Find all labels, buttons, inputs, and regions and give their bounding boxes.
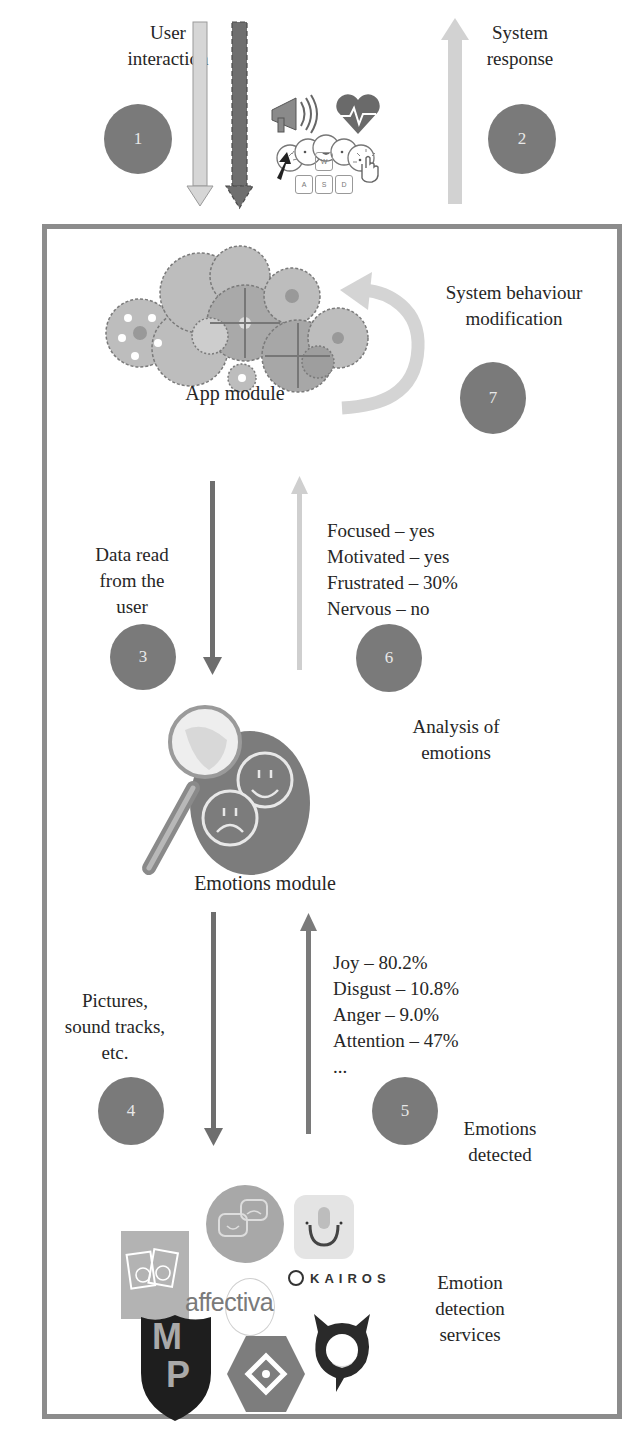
- detected-more: ...: [333, 1054, 459, 1080]
- data-read-arrow: [203, 481, 223, 676]
- heart-rate-icon: [334, 92, 382, 136]
- analysis-result-motivated: Motivated – yes: [327, 544, 458, 570]
- step-2-number: 2: [518, 129, 527, 149]
- behaviour-line1: System behaviour: [430, 280, 598, 306]
- kairos-wordmark: KAIROS: [310, 1271, 391, 1286]
- chat-emotions-app-icon: [205, 1184, 285, 1264]
- analysis-result-nervous: Nervous – no: [327, 596, 458, 622]
- media-label: Pictures, sound tracks, etc.: [50, 988, 180, 1066]
- hexagon-diamond-logo: [226, 1334, 306, 1414]
- analysis-result-arrow: [290, 476, 310, 671]
- step-1-badge: 1: [104, 104, 172, 174]
- services-line2: detection: [410, 1296, 530, 1322]
- touch-hand-icon: [352, 150, 382, 184]
- analysis-result-frustrated: Frustrated – 30%: [327, 570, 458, 596]
- analysis-result-focused: Focused – yes: [327, 518, 458, 544]
- data-read-line1: Data read: [72, 542, 192, 568]
- analysis-label-line2: emotions: [396, 740, 516, 766]
- user-input-arrow-light: [187, 22, 213, 212]
- step-5-badge: 5: [372, 1077, 438, 1145]
- step-4-number: 4: [127, 1101, 136, 1121]
- analysis-results-list: Focused – yes Motivated – yes Frustrated…: [327, 518, 458, 622]
- step-6-badge: 6: [356, 624, 422, 692]
- services-line3: services: [410, 1322, 530, 1348]
- system-response-label: System response: [460, 20, 580, 72]
- step-3-number: 3: [139, 647, 148, 667]
- detected-disgust: Disgust – 10.8%: [333, 976, 459, 1002]
- emotions-detected-label: Emotions detected: [440, 1116, 560, 1168]
- detection-services-label: Emotion detection services: [410, 1270, 530, 1348]
- key-d: D: [335, 175, 353, 194]
- system-response-line1: System: [460, 20, 580, 46]
- step-1-number: 1: [134, 129, 143, 149]
- mp-letter-m: M: [150, 1318, 200, 1356]
- emotions-module-label: Emotions module: [180, 870, 350, 896]
- media-line2: sound tracks,: [50, 1014, 180, 1040]
- media-line3: etc.: [50, 1040, 180, 1066]
- behaviour-modification-arrow: [338, 268, 428, 418]
- user-input-arrow-dark: [226, 22, 254, 212]
- behaviour-line2: modification: [430, 306, 598, 332]
- keyboard-wasd-icon: W A S D: [294, 150, 356, 200]
- microphone-app-icon: [294, 1195, 356, 1261]
- detected-label-line1: Emotions: [440, 1116, 560, 1142]
- data-read-label: Data read from the user: [72, 542, 192, 620]
- services-line1: Emotion: [410, 1270, 530, 1296]
- detected-results-list: Joy – 80.2% Disgust – 10.8% Anger – 9.0%…: [333, 950, 459, 1080]
- step-3-badge: 3: [110, 624, 176, 690]
- emotions-detected-arrow: [299, 913, 319, 1135]
- analysis-of-emotions-label: Analysis of emotions: [396, 714, 516, 766]
- mp-shield-letters: M P: [150, 1318, 200, 1394]
- detected-anger: Anger – 9.0%: [333, 1002, 459, 1028]
- detected-label-line2: detected: [440, 1142, 560, 1168]
- mp-letter-p: P: [150, 1356, 200, 1394]
- magnifier-faces-icon: [135, 700, 345, 880]
- data-read-line2: from the: [72, 568, 192, 594]
- step-6-number: 6: [385, 648, 394, 668]
- detected-joy: Joy – 80.2%: [333, 950, 459, 976]
- media-line1: Pictures,: [50, 988, 180, 1014]
- data-read-line3: user: [72, 594, 192, 620]
- key-w: W: [315, 152, 333, 171]
- system-response-line2: response: [460, 46, 580, 72]
- step-2-badge: 2: [488, 104, 556, 174]
- key-s: S: [315, 175, 333, 194]
- detected-attention: Attention – 47%: [333, 1028, 459, 1054]
- step-5-number: 5: [401, 1101, 410, 1121]
- megaphone-icon: [268, 92, 328, 137]
- step-7-badge: 7: [460, 362, 526, 434]
- media-arrow: [204, 912, 224, 1147]
- gears-cloud-icon: [100, 238, 370, 398]
- behaviour-modification-label: System behaviour modification: [430, 280, 598, 332]
- face-cards-app-icon: [121, 1231, 191, 1319]
- key-a: A: [295, 175, 313, 194]
- analysis-label-line1: Analysis of: [396, 714, 516, 740]
- step-4-badge: 4: [98, 1077, 164, 1145]
- horned-ring-logo: [310, 1312, 374, 1396]
- app-module-label: App module: [160, 380, 310, 406]
- step-7-number: 7: [489, 388, 498, 408]
